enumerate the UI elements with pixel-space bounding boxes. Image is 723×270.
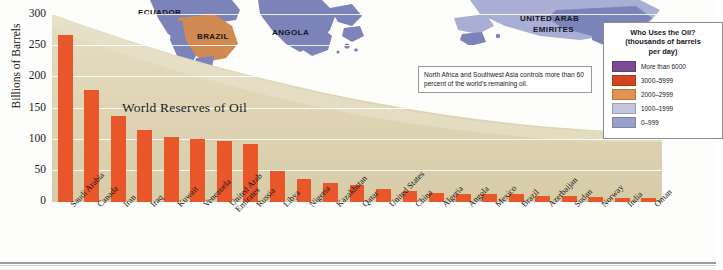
legend-title-line2: (thousands of barrels [610,37,716,46]
bar-iraq [137,130,152,202]
ytick-150: 150 [0,101,46,113]
ytick-50: 50 [0,163,46,175]
x-axis-labels: Saudi ArabiaCanadaIranIraqKuwaitVenezuel… [52,202,662,270]
ytick-250: 250 [0,38,46,50]
y-axis-label: Billions of Barrels [10,6,22,126]
legend-swatch-icon [612,61,636,72]
legend-item: 1000–1999 [612,103,716,114]
legend-item-label: More than 6000 [641,63,686,70]
page-bottom-rule-2 [0,265,716,266]
ytick-100: 100 [0,132,46,144]
legend-swatch-icon [612,75,636,86]
legend-items: More than 60003000–59992000–29991000–199… [610,61,716,128]
ytick-200: 200 [0,69,46,81]
legend-item: 3000–5999 [612,75,716,86]
legend-title-line1: Who Uses the Oil? [610,28,716,37]
chart-title: World Reserves of Oil [122,100,247,116]
legend-item-label: 1000–1999 [641,105,673,112]
page-bottom-rule [0,262,716,264]
legend-title: Who Uses the Oil? (thousands of barrels … [610,28,716,56]
legend-item-label: 3000–5999 [641,77,673,84]
ytick-300: 300 [0,7,46,19]
legend: Who Uses the Oil? (thousands of barrels … [603,22,723,139]
legend-item-label: 0–999 [641,119,659,126]
legend-item-label: 2000–2999 [641,91,673,98]
legend-swatch-icon [612,103,636,114]
legend-item: 0–999 [612,117,716,128]
legend-item: More than 6000 [612,61,716,72]
ytick-0: 0 [0,194,46,206]
legend-swatch-icon [612,89,636,100]
legend-swatch-icon [612,117,636,128]
bar-kuwait [164,137,179,202]
legend-title-line3: per day) [610,47,716,56]
legend-item: 2000–2999 [612,89,716,100]
bar-saudi-arabia [58,35,73,202]
annotation-box: North Africa and Southwest Asia controls… [418,66,592,93]
